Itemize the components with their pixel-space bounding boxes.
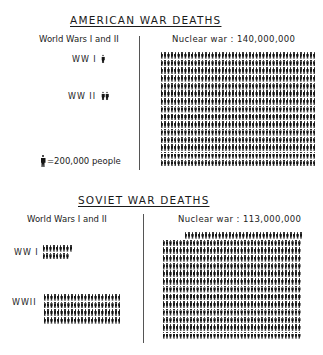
soviet-ww2-label: WWII (12, 298, 37, 307)
figure-row (160, 144, 316, 152)
soviet-left-header: World Wars I and II (27, 214, 107, 224)
figure-row (184, 232, 303, 240)
soviet-ww2-figures (43, 294, 121, 325)
figure-row (160, 137, 316, 145)
figure-row (162, 263, 303, 271)
person-icon (313, 83, 316, 90)
figure-row (43, 309, 121, 317)
legend-text: =200,000 people (47, 156, 121, 166)
person-icon (298, 240, 301, 247)
person-icon (313, 114, 316, 121)
person-icon (313, 67, 316, 74)
person-icon (298, 263, 301, 270)
american-ww2: WW II (68, 90, 110, 102)
person-icon (298, 309, 301, 316)
figure-row (162, 309, 303, 317)
figure-row (160, 98, 316, 106)
figure-row (160, 60, 316, 68)
american-left-header: World Wars I and II (39, 34, 119, 44)
american-ww1-label: WW I (72, 55, 97, 64)
figure-row (162, 324, 303, 332)
person-icon (298, 247, 301, 254)
figure-row (160, 75, 316, 83)
american-nuclear-figures (160, 52, 316, 167)
figure-row (160, 129, 316, 137)
figure-row (162, 270, 303, 278)
person-icon (313, 98, 316, 105)
figure-row (43, 294, 121, 302)
soviet-divider (143, 214, 144, 343)
american-ww2-figures (100, 90, 110, 102)
figure-row (162, 278, 303, 286)
person-icon (298, 255, 301, 262)
person-icon (298, 278, 301, 285)
american-divider (139, 36, 140, 170)
figure-row (162, 286, 303, 294)
person-icon (298, 286, 301, 293)
person-icon (313, 75, 316, 82)
american-legend: =200,000 people (40, 155, 121, 167)
person-icon (298, 324, 301, 331)
figure-row (160, 67, 316, 75)
person-icon (313, 121, 316, 128)
american-ww2-label: WW II (68, 92, 96, 101)
soviet-nuclear-figures (162, 232, 303, 340)
person-icon (313, 129, 316, 136)
person-icon (101, 55, 105, 63)
person-icon (313, 160, 316, 167)
figure-row (42, 245, 73, 253)
figure-row (162, 301, 303, 309)
figure-row (162, 240, 303, 248)
figure-row (162, 255, 303, 263)
person-icon (69, 245, 72, 252)
figure-row (160, 114, 316, 122)
american-title: AMERICAN WAR DEATHS (70, 14, 221, 26)
figure-row (160, 90, 316, 98)
person-icon (313, 106, 316, 113)
person-icon (313, 144, 316, 151)
person-icon (40, 155, 46, 167)
figure-row (162, 247, 303, 255)
figure-row (162, 332, 303, 340)
figure-row (160, 52, 316, 60)
person-icon (298, 270, 301, 277)
soviet-ww1-label: WW I (14, 248, 39, 257)
figure-row (160, 152, 316, 160)
figure-row (42, 253, 73, 261)
soviet-title: SOVIET WAR DEATHS (78, 194, 210, 206)
person-icon (118, 302, 121, 309)
person-icon (299, 232, 302, 239)
person-icon (118, 317, 121, 324)
figure-row (43, 317, 121, 325)
person-icon (313, 52, 316, 59)
person-icon (298, 301, 301, 308)
person-icon (118, 294, 121, 301)
person-icon (298, 317, 301, 324)
person-icon (105, 92, 109, 100)
figure-row (160, 160, 316, 168)
soviet-right-header: Nuclear war : 113,000,000 (178, 214, 301, 224)
figure-row (160, 106, 316, 114)
soviet-ww1-figures (42, 245, 73, 260)
figure-row (43, 302, 121, 310)
person-icon (118, 309, 121, 316)
person-icon (298, 332, 301, 339)
american-right-header: Nuclear war : 140,000,000 (172, 34, 295, 44)
figure-row (162, 317, 303, 325)
person-icon (313, 90, 316, 97)
person-icon (66, 253, 69, 260)
figure-row (162, 294, 303, 302)
person-icon (313, 152, 316, 159)
person-icon (313, 60, 316, 67)
person-icon (313, 137, 316, 144)
figure-row (160, 83, 316, 91)
american-ww1: WW I (72, 53, 106, 65)
figure-row (160, 121, 316, 129)
person-icon (298, 294, 301, 301)
